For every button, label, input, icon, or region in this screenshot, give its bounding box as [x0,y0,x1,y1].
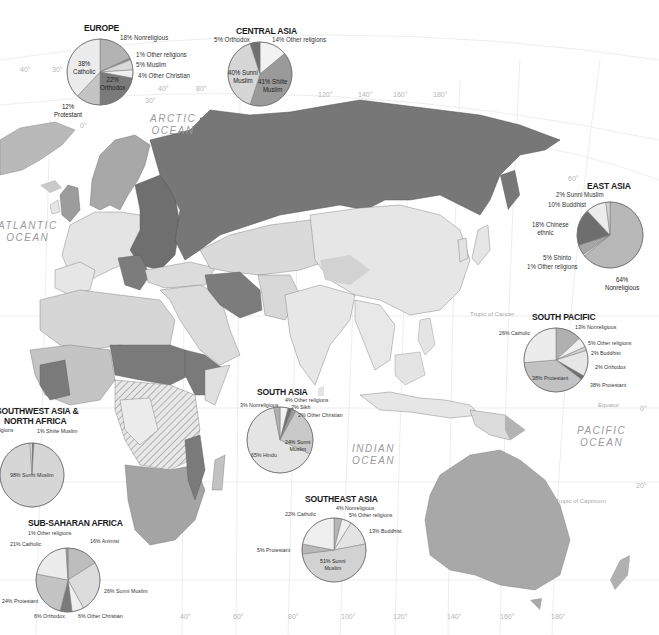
ocean-label-arctic: ARCTIC OCEAN [150,113,196,137]
pie-label-south-pacific-other-christian: 2% Orthodox [595,364,626,371]
pie-title-east-asia: EAST ASIA [587,180,631,191]
pie-label-south-pacific-other-religions: 5% Other religions [588,340,631,347]
ocean-label-pacific: PACIFIC OCEAN [577,425,626,449]
pie-label-ssa-sunni: 26% Sunni Muslim [104,588,148,595]
pie-label-south-pacific-buddhist: 2% Buddhist [591,350,621,357]
pie-label-europe-protestant: 12%Protestant [54,103,82,119]
pie-label-ssa-protestant: 24% Protestant [2,598,38,605]
pie-label-southwest-asia-sunni: 98% Sunni Muslim [10,472,54,479]
pie-label-ssa-other-christian: 6% Other Christian [78,613,123,620]
grid-label: 100° [341,613,355,620]
pie-label-ssa-orthodox: 6% Orthodox [34,613,65,620]
grid-label: 30° [52,66,63,73]
pie-label-south-asia-hindu: 65% Hindu [251,452,277,459]
grid-label: 80° [288,613,299,620]
pie-label-east-asia-shinto: 5% Shinto [543,254,571,262]
pie-title-sub-saharan-africa: SUB-SAHARAN AFRICA [28,517,123,528]
pie-label-europe-nonreligious: 18% Nonreligious [120,34,168,42]
grid-label: 40° [620,560,631,567]
pie-label-southwest-asia-shiite: 1% Shiite Muslim [37,428,77,435]
grid-label: 60° [568,175,579,182]
pie-label-southeast-asia-other: 5% Other religions [349,512,392,519]
pie-label-southeast-asia-buddhist: 13% Buddhist [369,528,402,535]
pie-label-south-pacific-nonreligious: 13% Nonreligious [575,324,616,331]
pie-label-east-asia-sunni: 2% Sunni Muslim [556,191,604,199]
grid-label: 160° [500,613,514,620]
pie-label-east-asia-chinese: 18% Chinese ethnic [532,221,569,237]
pie-label-south-asia-sunni: 24% SunniMuslim [285,439,311,453]
pie-title-central-asia: CENTRAL ASIA [236,25,297,36]
pie-label-east-asia-nonreligious: 64%Nonreligious [605,276,639,292]
pie-label-ssa-other: 1% Other religions [28,530,71,537]
grid-label: 20° [636,482,647,489]
pie-label-central-asia-other-religions: 14% Other religions [272,36,326,44]
pie-label-south-pacific-orthodox: 38% Protestant [590,382,626,389]
grid-label: 140° [447,613,461,620]
pie-label-europe-muslim: 5% Muslim [136,61,166,69]
grid-label: 0° [80,122,87,129]
equator-label: Equator [598,402,619,408]
grid-label: 180° [551,613,565,620]
grid-label: 120° [393,613,407,620]
pie-label-europe-other-religions: 1% Other religions [136,51,187,59]
ocean-label-line: INDIAN [352,443,395,455]
pie-label-east-asia-buddhist: 10% Buddhist [548,201,586,209]
ocean-label-indian: INDIAN OCEAN [352,443,395,467]
pie-label-east-asia-other: 1% Other religions [527,263,578,271]
pie-title-southeast-asia: SOUTHEAST ASIA [305,493,378,504]
pie-label-ssa-catholic: 21% Catholic [10,541,41,548]
landmass-korea [458,238,468,262]
pie-label-south-asia-sikh: 2% Sikh [291,404,310,411]
grid-label: 80° [196,85,207,92]
ocean-label-line: ARCTIC [150,113,196,125]
ocean-label-line: OCEAN [577,437,626,449]
pie-label-ssa-animist: 16% Animist [90,538,119,545]
pie-title-southwest-asia-line2: NORTH AFRICA [4,415,67,426]
pie-label-central-asia-shiite: 41% ShiiteMuslim [258,78,287,94]
pie-label-south-asia-other: 4% Other religions [285,397,328,404]
pie-label-southwest-asia-other: 1% Other religions [0,427,13,434]
ocean-label-line: OCEAN [150,125,196,137]
pie-title-europe: EUROPE [84,22,119,33]
pie-label-europe-other-christian: 4% Other Christian [138,72,190,80]
grid-label: 140° [358,91,372,98]
pie-label-europe-orthodox: 22%Orthodox [100,76,125,92]
tropic-of-capricorn-label: Tropic of Capricorn [555,498,606,504]
pie-label-southeast-asia-nonreligious: 4% Nonreligious [336,505,374,512]
grid-label: 40° [158,85,169,92]
grid-label: 0° [640,405,647,412]
ocean-label-line: PACIFIC [577,425,626,437]
pie-label-central-asia-orthodox: 5% Orthodox [214,36,250,44]
pie-label-southeast-asia-catholic: 22% Catholic [285,511,316,518]
grid-label: 40° [180,613,191,620]
grid-label: 40° [20,66,31,73]
grid-label: 60° [233,613,244,620]
ocean-label-line: OCEAN [352,455,395,467]
pie-title-south-pacific: SOUTH PACIFIC [532,311,596,322]
ocean-label-line: ATLANTIC [0,220,58,232]
tropic-of-cancer-label: Tropic of Cancer [470,311,514,317]
pie-title-south-asia: SOUTH ASIA [257,386,308,397]
pie-label-south-asia-nonreligious: 3% Nonreligious [240,402,278,409]
pie-label-south-pacific-catholic: 26% Catholic [499,330,530,337]
pie-label-southeast-asia-protestant: 5% Protestant [257,547,290,554]
grid-label: 160° [393,91,407,98]
grid-label: 120° [318,91,332,98]
ocean-label-line: OCEAN [0,232,58,244]
pie-label-south-asia-other-christian: 2% Other Christian [298,412,343,419]
pie-label-europe-catholic: 38%Catholic [73,60,95,76]
pie-label-south-pacific-protestant: 38% Protestant [532,375,568,382]
pie-label-central-asia-sunni: 40% SunniMuslim [228,69,258,85]
grid-label: 180° [433,91,447,98]
grid-label: 30° [145,97,156,104]
ocean-label-atlantic: ATLANTIC OCEAN [0,220,58,244]
pie-label-southeast-asia-sunni: 51% SunniMuslim [320,558,346,572]
